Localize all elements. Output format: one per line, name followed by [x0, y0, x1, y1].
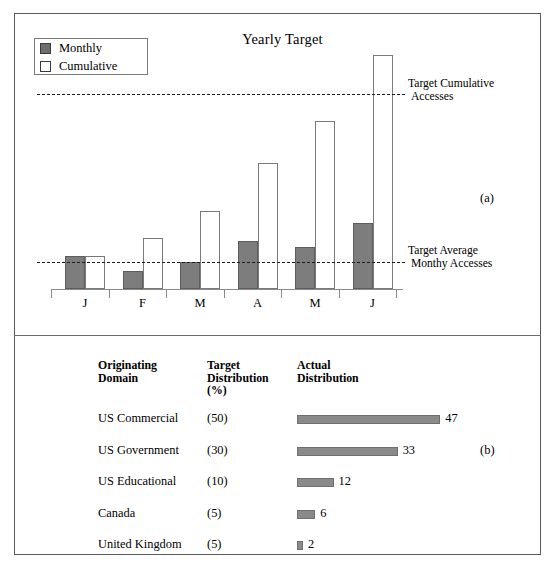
- column-header-target-distribution: Target Distribution (%): [207, 359, 269, 397]
- row-actual-distribution-bar: [297, 541, 303, 550]
- x-axis-tick: [51, 289, 52, 298]
- x-axis-tick: [396, 289, 397, 298]
- panel-a-caption-label: (a): [480, 191, 494, 206]
- x-axis-baseline: [51, 289, 403, 290]
- bar-cumulative: [200, 211, 220, 289]
- row-actual-distribution-value: 2: [308, 537, 314, 552]
- column-header-actual-distribution: Actual Distribution: [297, 359, 359, 384]
- bar-monthly: [123, 271, 143, 289]
- row-actual-distribution-value: 6: [320, 506, 326, 521]
- bar-cumulative: [143, 238, 163, 289]
- x-axis-tick-label: F: [131, 296, 155, 311]
- header-line-3: (%): [207, 383, 227, 397]
- bar-monthly: [238, 241, 258, 289]
- column-header-originating-domain: Originating Domain: [98, 359, 157, 384]
- row-actual-distribution-bar: [297, 478, 334, 487]
- annotation-line-1: Target Average: [408, 244, 478, 257]
- row-actual-distribution-bar: [297, 510, 315, 519]
- annotation-line-2: Monthy Accesses: [408, 257, 492, 270]
- bar-monthly: [353, 223, 373, 289]
- header-line-2: Domain: [98, 371, 138, 385]
- row-target-distribution: (30): [207, 443, 228, 458]
- header-line-2: Distribution: [297, 371, 359, 385]
- annotation-target-average: Target Average Monthy Accesses: [408, 245, 492, 270]
- bar-monthly: [295, 247, 315, 289]
- row-actual-distribution-value: 47: [445, 411, 457, 426]
- x-axis-tick-label: M: [303, 296, 327, 311]
- row-label-domain: US Commercial: [98, 411, 178, 426]
- row-actual-distribution-value: 33: [403, 443, 415, 458]
- x-axis-tick: [109, 289, 110, 298]
- bar-cumulative: [373, 55, 393, 289]
- bar-cumulative: [85, 256, 105, 289]
- row-target-distribution: (50): [207, 411, 228, 426]
- figure-root: Yearly Target Monthly Cumulative JFMAMJT…: [0, 0, 556, 568]
- row-label-domain: Canada: [98, 506, 135, 521]
- x-axis-tick: [166, 289, 167, 298]
- bar-cumulative: [315, 121, 335, 289]
- row-target-distribution: (10): [207, 474, 228, 489]
- x-axis-tick: [339, 289, 340, 298]
- row-label-domain: US Educational: [98, 474, 176, 489]
- x-axis-tick-label: M: [188, 296, 212, 311]
- row-actual-distribution-value: 12: [339, 474, 351, 489]
- bar-monthly: [180, 262, 200, 289]
- annotation-line-2: Accesses: [408, 90, 453, 103]
- target-line-target-cumulative: [37, 94, 405, 95]
- plot-area-a: JFMAMJTarget Cumulative AccessesTarget A…: [14, 13, 541, 335]
- x-axis-tick-label: J: [361, 296, 385, 311]
- bar-cumulative: [258, 163, 278, 289]
- row-target-distribution: (5): [207, 537, 221, 552]
- row-actual-distribution-bar: [297, 415, 440, 424]
- x-axis-tick-label: J: [73, 296, 97, 311]
- row-actual-distribution-bar: [297, 447, 398, 456]
- target-line-target-average: [37, 262, 405, 263]
- row-label-domain: US Government: [98, 443, 179, 458]
- row-target-distribution: (5): [207, 506, 221, 521]
- panel-a-bar-chart: Yearly Target Monthly Cumulative JFMAMJT…: [14, 13, 541, 335]
- annotation-line-1: Target Cumulative: [408, 77, 494, 90]
- row-label-domain: United Kingdom: [98, 537, 182, 552]
- x-axis-tick: [281, 289, 282, 298]
- x-axis-tick-label: A: [246, 296, 270, 311]
- annotation-target-cumulative: Target Cumulative Accesses: [408, 78, 494, 103]
- x-axis-tick: [224, 289, 225, 298]
- panel-b-distribution-table: Originating Domain Target Distribution (…: [14, 335, 541, 555]
- panel-b-caption-label: (b): [480, 443, 495, 458]
- bar-monthly: [65, 256, 85, 289]
